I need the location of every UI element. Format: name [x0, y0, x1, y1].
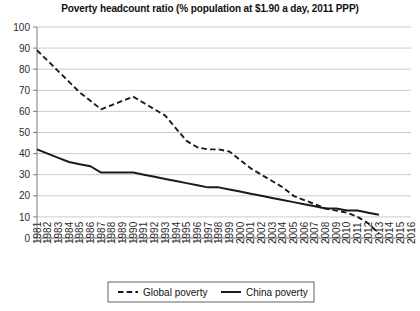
x-tick-label: 1993: [160, 221, 171, 244]
y-tick-label: 30: [19, 169, 31, 180]
x-tick-label: 2002: [256, 221, 267, 244]
y-tick-label: 90: [19, 43, 31, 54]
x-tick-label: 2005: [288, 221, 299, 244]
x-tick-label: 2009: [331, 221, 342, 244]
y-tick-label: 100: [13, 22, 30, 33]
y-tick-label: 70: [19, 85, 31, 96]
x-tick-label: 2010: [341, 221, 352, 244]
y-tick-label: 20: [19, 190, 31, 201]
x-tick-label: 1982: [42, 221, 53, 244]
x-tick-label: 2003: [267, 221, 278, 244]
x-tick-label: 1990: [128, 221, 139, 244]
x-tick-label: 1996: [192, 221, 203, 244]
x-tick-label: 1997: [203, 221, 214, 244]
y-tick-label: 0: [24, 233, 30, 244]
y-tick-label: 40: [19, 148, 31, 159]
x-tick-label: 1985: [74, 221, 85, 244]
y-tick-label: 60: [19, 106, 31, 117]
x-tick-label: 1983: [53, 221, 64, 244]
x-tick-label: 1981: [32, 221, 43, 244]
x-tick-label: 1986: [85, 221, 96, 244]
gridlines: [37, 27, 411, 238]
data-series: [37, 50, 379, 234]
x-tick-label: 2016: [406, 221, 417, 244]
chart-plot-area: 0102030405060708090100 19811982198319841…: [0, 0, 420, 311]
x-tick-label: 2011: [352, 222, 363, 244]
x-tick-label: 2006: [299, 221, 310, 244]
series-line-1: [37, 50, 379, 234]
x-tick-label: 1991: [138, 221, 149, 244]
x-tick-label: 1995: [181, 221, 192, 244]
x-tick-label: 1998: [213, 221, 224, 244]
x-tick-label: 1989: [117, 221, 128, 244]
x-tick-label: 1999: [224, 221, 235, 244]
series-line-2: [37, 149, 379, 214]
x-tick-label: 2000: [235, 221, 246, 244]
x-tick-label: 2014: [384, 221, 395, 244]
x-tick-label: 1992: [149, 221, 160, 244]
poverty-headcount-chart: Poverty headcount ratio (% population at…: [0, 0, 420, 311]
x-axis: 1981198219831984198519861987198819891990…: [32, 221, 417, 244]
x-tick-label: 2001: [245, 221, 256, 244]
x-tick-label: 1994: [171, 221, 182, 244]
legend-label-2: China poverty: [246, 287, 308, 298]
x-tick-label: 1984: [64, 221, 75, 244]
legend-label-1: Global poverty: [143, 287, 207, 298]
chart-legend: Global povertyChina poverty: [108, 282, 314, 302]
x-tick-label: 2008: [320, 221, 331, 244]
y-axis: 0102030405060708090100: [13, 22, 37, 244]
x-tick-label: 2004: [277, 221, 288, 244]
x-tick-label: 2012: [363, 221, 374, 244]
y-tick-label: 80: [19, 64, 31, 75]
x-tick-label: 2007: [309, 221, 320, 244]
x-tick-label: 1987: [96, 221, 107, 244]
y-tick-label: 10: [19, 212, 31, 223]
x-tick-label: 2015: [395, 221, 406, 244]
x-tick-label: 1988: [106, 221, 117, 244]
y-tick-label: 50: [19, 127, 31, 138]
